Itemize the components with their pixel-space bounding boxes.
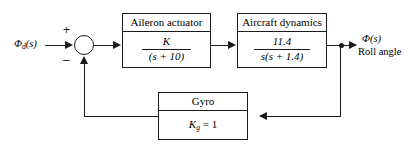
minus-sign-label: –: [63, 56, 70, 65]
aileron-actuator-transfer-function: K (s + 10): [142, 36, 192, 63]
aircraft-dynamics-transfer-function: 11.4 s(s + 1.4): [254, 36, 311, 63]
block-gyro: Gyro Kg = 1: [158, 92, 248, 140]
gyro-body: Kg = 1: [159, 111, 247, 139]
feedback-vertical-wire-left: [84, 62, 85, 117]
input-argument: (s): [26, 38, 37, 49]
aircraft-dynamics-title: Aircraft dynamics: [238, 14, 326, 32]
gyro-gain-subscript: g: [196, 123, 200, 132]
gyro-transfer-function: Kg = 1: [189, 118, 217, 132]
plus-sign-label: +: [63, 26, 70, 35]
aircraft-dynamics-body: 11.4 s(s + 1.4): [238, 32, 326, 67]
input-signal-label: Φd(s): [14, 38, 37, 53]
output-signal-label: Φ(s): [362, 33, 381, 45]
error-wire: [94, 45, 114, 46]
control-block-diagram: Φd(s) + – Aileron actuator K (s + 10) Ai…: [0, 0, 412, 154]
aileron-actuator-title: Aileron actuator: [123, 14, 210, 32]
feedback-horizontal-wire-to-sum: [84, 116, 159, 117]
feedback-horizontal-wire-to-gyro: [260, 116, 341, 117]
actuator-output-arrowhead: [228, 41, 236, 49]
output-symbol: Φ: [362, 33, 370, 44]
aircraft-dynamics-denominator: s(s + 1.4): [254, 49, 311, 63]
input-symbol: Φ: [14, 38, 22, 49]
aircraft-dynamics-numerator: 11.4: [266, 36, 298, 48]
block-aircraft-dynamics: Aircraft dynamics 11.4 s(s + 1.4): [237, 13, 327, 68]
summing-junction: [74, 35, 94, 55]
aileron-actuator-body: K (s + 10): [123, 32, 210, 67]
gyro-gain-value: = 1: [203, 118, 217, 130]
input-arrowhead: [65, 41, 73, 49]
block-aileron-actuator: Aileron actuator K (s + 10): [122, 13, 211, 68]
input-wire: [45, 45, 66, 46]
output-arrowhead: [349, 41, 357, 49]
feedback-vertical-wire-right: [340, 45, 341, 117]
gyro-title: Gyro: [159, 93, 247, 111]
aileron-actuator-denominator: (s + 10): [142, 49, 192, 63]
feedback-arrowhead-into-sum: [80, 56, 88, 64]
gyro-input-arrowhead: [259, 112, 267, 120]
error-arrowhead: [113, 41, 121, 49]
output-caption: Roll angle: [358, 46, 401, 58]
output-argument: (s): [370, 33, 381, 44]
aileron-actuator-numerator: K: [156, 36, 177, 48]
actuator-output-wire: [211, 45, 229, 46]
